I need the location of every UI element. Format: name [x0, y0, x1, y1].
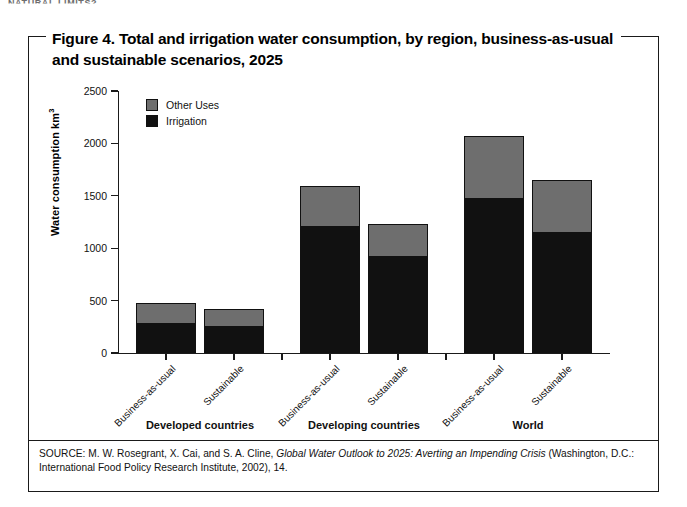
bar-segment-irrigation: [368, 256, 428, 353]
source-divider: [29, 440, 658, 441]
chart-legend: Other Uses Irrigation: [146, 99, 219, 131]
x-axis-tick: [165, 353, 166, 360]
x-axis-line: [118, 353, 610, 354]
bar-segment-irrigation: [204, 326, 264, 353]
y-axis-tick-label: 1500: [84, 191, 107, 202]
chart-bar: [136, 303, 196, 353]
x-axis-group-tick: [281, 353, 282, 360]
y-axis-tick: [111, 300, 118, 301]
bar-segment-other-uses: [136, 303, 196, 323]
chart-bar: [300, 186, 360, 353]
chart-bar: [532, 180, 592, 353]
figure-title-line1: Figure 4. Total and irrigation water con…: [52, 30, 613, 47]
chart-bar: [368, 224, 428, 353]
legend-item-other-uses: Other Uses: [146, 99, 219, 111]
x-axis-tick: [397, 353, 398, 360]
bar-segment-irrigation: [464, 198, 524, 353]
x-axis-tick: [561, 353, 562, 360]
x-axis-group-label: Developing countries: [282, 419, 446, 431]
legend-swatch-irrigation-icon: [146, 115, 158, 127]
y-axis-tick: [111, 195, 118, 196]
x-axis-tick: [329, 353, 330, 360]
chart-bar: [464, 136, 524, 353]
source-note: SOURCE: M. W. Rosegrant, X. Cai, and S. …: [39, 447, 647, 476]
bar-segment-irrigation: [532, 232, 592, 353]
legend-label-irrigation: Irrigation: [166, 116, 207, 127]
y-axis-tick: [111, 352, 118, 353]
y-axis-label: Water consumption km3: [47, 109, 61, 237]
y-axis-tick: [111, 143, 118, 144]
y-axis-tick: [111, 248, 118, 249]
y-axis-tick: [111, 90, 118, 91]
y-axis-tick-label: 2500: [84, 86, 107, 97]
bar-segment-other-uses: [204, 309, 264, 326]
x-axis-group-tick: [445, 353, 446, 360]
y-axis-tick-label: 500: [89, 295, 107, 306]
y-axis-tick-label: 0: [101, 348, 107, 359]
bar-segment-irrigation: [300, 226, 360, 353]
figure-title-line2: and sustainable scenarios, 2025: [52, 50, 615, 71]
bar-segment-other-uses: [300, 186, 360, 225]
figure-title: Figure 4. Total and irrigation water con…: [46, 27, 621, 70]
source-prefix: SOURCE: M. W. Rosegrant, X. Cai, and S. …: [39, 448, 276, 459]
figure-page: NATURAL LIMITS? Figure 4. Total and irri…: [0, 0, 687, 507]
legend-item-irrigation: Irrigation: [146, 115, 219, 127]
x-axis-tick: [493, 353, 494, 360]
legend-label-other-uses: Other Uses: [166, 100, 219, 111]
bar-segment-other-uses: [532, 180, 592, 232]
y-axis-line: [118, 91, 119, 353]
x-axis-group-label: Developed countries: [118, 419, 282, 431]
legend-swatch-other-uses-icon: [146, 99, 158, 111]
y-axis-tick-label: 1000: [84, 243, 107, 254]
bar-segment-irrigation: [136, 323, 196, 353]
y-axis-tick-label: 2000: [84, 138, 107, 149]
running-head: NATURAL LIMITS?: [8, 0, 97, 8]
x-axis-tick: [233, 353, 234, 360]
chart-bar: [204, 309, 264, 353]
source-title: Global Water Outlook to 2025: Averting a…: [276, 448, 545, 459]
x-axis-group-label: World: [446, 419, 610, 431]
bar-segment-other-uses: [368, 224, 428, 256]
bar-segment-other-uses: [464, 136, 524, 198]
